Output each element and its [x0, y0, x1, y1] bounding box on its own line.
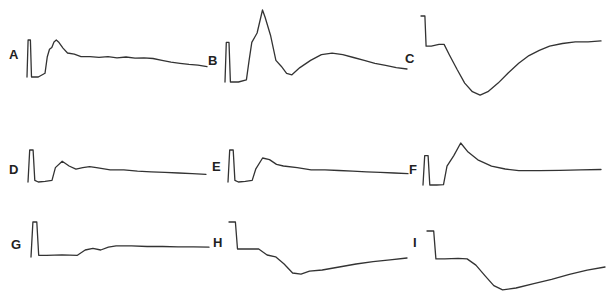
waveform-figure: A B C D E F G H I [0, 0, 610, 298]
panel-label-g: G [11, 238, 21, 251]
panel-label-c: C [405, 52, 414, 65]
trace-d [28, 150, 206, 182]
panel-label-i: I [413, 236, 417, 249]
trace-i [427, 231, 605, 290]
trace-a [27, 40, 207, 77]
panel-label-e: E [212, 160, 221, 173]
trace-f [423, 143, 601, 185]
panel-label-d: D [9, 163, 18, 176]
trace-e [228, 150, 408, 182]
panel-label-f: F [409, 163, 417, 176]
traces-canvas [0, 0, 610, 298]
panel-label-a: A [9, 48, 18, 61]
panel-label-h: H [213, 236, 222, 249]
trace-h [229, 222, 407, 274]
trace-g [31, 222, 209, 257]
panel-label-b: B [208, 54, 217, 67]
trace-b [225, 10, 407, 82]
trace-c [421, 16, 601, 95]
